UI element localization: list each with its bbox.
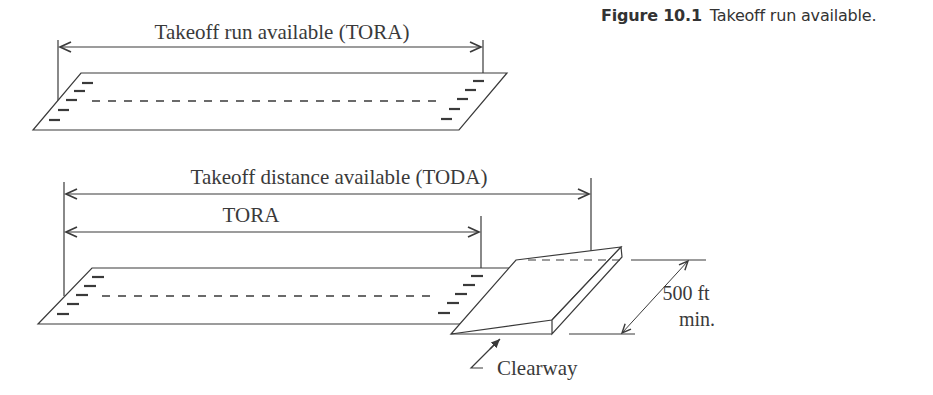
- toda-diagram: [38, 178, 706, 368]
- tora-diagram: [33, 40, 507, 130]
- clearway-label: Clearway: [497, 356, 578, 380]
- tora-label: Takeoff run available (TORA): [155, 20, 410, 44]
- tora-label-bottom: TORA: [223, 203, 281, 227]
- toda-label: Takeoff distance available (TODA): [191, 165, 488, 189]
- clearway-arrowhead: [490, 339, 500, 349]
- width-label-line2: min.: [679, 308, 715, 330]
- width-label-line1: 500 ft: [662, 282, 710, 304]
- takeoff-diagram: Takeoff run available (TORA): [0, 0, 933, 395]
